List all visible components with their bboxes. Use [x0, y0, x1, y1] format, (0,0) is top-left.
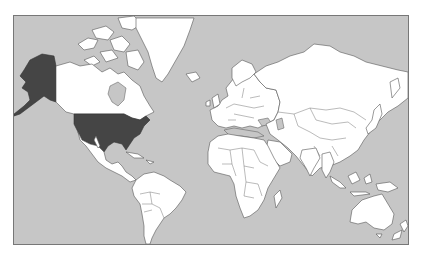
map-canvas	[14, 16, 408, 244]
world-map	[13, 15, 409, 245]
